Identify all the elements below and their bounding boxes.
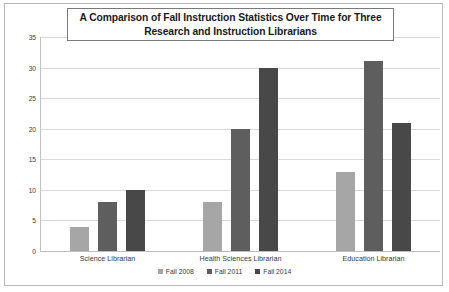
bar-group xyxy=(203,37,278,251)
legend-label: Fall 2011 xyxy=(215,268,242,275)
legend-swatch-icon xyxy=(207,269,212,274)
bar xyxy=(203,202,222,251)
chart-title-line-2: Research and Instruction Librarians xyxy=(144,25,317,39)
legend-swatch-icon xyxy=(158,269,163,274)
bar xyxy=(98,202,117,251)
bar xyxy=(70,227,89,251)
y-tick-label: 30 xyxy=(12,64,36,71)
bar xyxy=(336,172,355,251)
y-tick-label: 20 xyxy=(12,125,36,132)
category-label: Education Librarian xyxy=(343,254,405,263)
y-tick-label: 5 xyxy=(12,217,36,224)
y-tick-label: 10 xyxy=(12,186,36,193)
category-label: Science Librarian xyxy=(80,254,136,263)
category-label: Health Sciences Librarian xyxy=(200,254,282,263)
chart-title: A Comparison of Fall Instruction Statist… xyxy=(67,8,394,41)
legend-swatch-icon xyxy=(255,269,260,274)
y-tick-label: 15 xyxy=(12,156,36,163)
chart-legend: Fall 2008Fall 2011Fall 2014 xyxy=(5,268,444,275)
gridline xyxy=(41,251,440,252)
legend-label: Fall 2014 xyxy=(263,268,291,275)
legend-item[interactable]: Fall 2014 xyxy=(255,268,291,275)
y-tick-label: 0 xyxy=(12,248,36,255)
bar xyxy=(392,123,411,251)
y-axis-labels: 05101520253035 xyxy=(5,37,36,252)
category-axis-labels: Science LibrarianHealth Sciences Librari… xyxy=(41,254,440,268)
bar xyxy=(231,129,250,251)
chart-title-line-1: A Comparison of Fall Instruction Statist… xyxy=(79,11,381,25)
plot-area xyxy=(41,37,440,251)
bar xyxy=(259,68,278,251)
y-tick-label: 25 xyxy=(12,95,36,102)
legend-item[interactable]: Fall 2008 xyxy=(158,268,194,275)
chart-frame: A Comparison of Fall Instruction Statist… xyxy=(4,3,443,286)
bar-group xyxy=(336,37,411,251)
legend-label: Fall 2008 xyxy=(166,268,194,275)
bar-group xyxy=(70,37,145,251)
legend-item[interactable]: Fall 2011 xyxy=(207,268,242,275)
y-tick-label: 35 xyxy=(12,34,36,41)
bar xyxy=(126,190,145,251)
bar xyxy=(364,61,383,251)
